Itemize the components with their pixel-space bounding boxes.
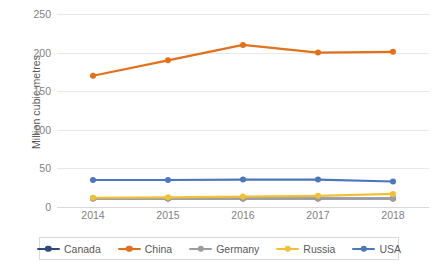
legend-item-germany[interactable]: Germany [189, 243, 259, 255]
x-tick-label: 2014 [81, 209, 104, 221]
legend-item-usa[interactable]: USA [352, 243, 401, 255]
y-tick-label: 250 [33, 8, 51, 20]
data-point [165, 194, 171, 200]
y-tick-label: 50 [39, 162, 51, 174]
gridline [57, 207, 429, 208]
data-point [315, 177, 321, 183]
series-china [90, 42, 396, 79]
legend-label: USA [379, 243, 401, 255]
y-tick-label: 0 [45, 201, 51, 213]
y-tick-label: 200 [33, 47, 51, 59]
legend-marker-icon [352, 244, 375, 254]
series-layer [57, 14, 429, 207]
data-point [90, 73, 96, 79]
legend-marker-icon [37, 244, 60, 254]
data-point [90, 177, 96, 183]
legend-label: Russia [303, 243, 335, 255]
y-tick-label: 100 [33, 124, 51, 136]
chart-legend: CanadaChinaGermanyRussiaUSA [39, 237, 399, 260]
series-line [93, 45, 393, 76]
legend-item-china[interactable]: China [118, 243, 172, 255]
x-tick-label: 2016 [231, 209, 254, 221]
legend-label: China [145, 243, 172, 255]
data-point [390, 191, 396, 197]
legend-item-canada[interactable]: Canada [37, 243, 101, 255]
x-tick-label: 2015 [156, 209, 179, 221]
legend-label: Germany [216, 243, 259, 255]
x-tick-label: 2018 [381, 209, 404, 221]
data-point [315, 193, 321, 199]
x-tick-label: 2017 [306, 209, 329, 221]
line-chart: Million cubic metres 050100150200250 201… [0, 0, 439, 270]
legend-item-russia[interactable]: Russia [276, 243, 335, 255]
data-point [390, 179, 396, 185]
data-point [240, 194, 246, 200]
x-axis-labels: 20142015201620172018 [57, 209, 429, 227]
data-point [165, 57, 171, 63]
data-point [90, 195, 96, 201]
plot-area: 050100150200250 [57, 14, 429, 207]
data-point [240, 42, 246, 48]
data-point [315, 50, 321, 56]
data-point [240, 177, 246, 183]
legend-marker-icon [118, 244, 141, 254]
y-tick-label: 150 [33, 85, 51, 97]
legend-marker-icon [276, 244, 299, 254]
data-point [390, 49, 396, 55]
series-usa [90, 177, 396, 185]
legend-marker-icon [189, 244, 212, 254]
data-point [165, 177, 171, 183]
legend-label: Canada [64, 243, 101, 255]
